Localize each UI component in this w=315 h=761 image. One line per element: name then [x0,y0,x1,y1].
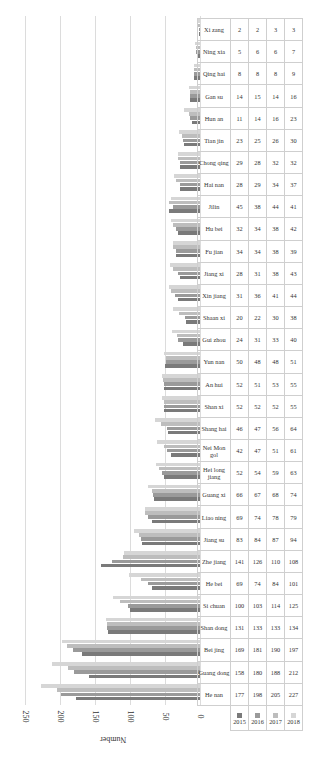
value-cell: 54 [249,462,267,484]
table-row: Fu jian34343839 [198,240,303,262]
category-label: Gan su [198,85,231,107]
bar-2015 [142,542,200,546]
value-cell: 87 [267,528,285,550]
bar-2017 [107,622,200,626]
value-cell: 34 [249,218,267,240]
legend-item-2016: 2016 [249,705,267,730]
bar-2016 [173,205,200,209]
category-label: Fu jian [198,240,231,262]
axis-tick-label: 250 [21,711,30,723]
value-cell: 190 [267,639,285,661]
value-cell: 126 [249,550,267,572]
category-label: Shan xi [198,395,231,417]
category-label: Hei long jiang [198,462,231,484]
value-cell: 25 [249,129,267,151]
value-cell: 67 [249,484,267,506]
value-cell: 8 [267,63,285,85]
table-row: Xin jiang31364144 [198,284,303,306]
value-cell: 6 [249,41,267,63]
value-cell: 61 [285,439,303,461]
bar-2017 [152,489,200,493]
table-row: He bei697484101 [198,572,303,594]
category-label: Shan dong [198,617,231,639]
value-cell: 23 [231,129,249,151]
value-cell: 47 [249,439,267,461]
category-label: Jiang su [198,528,231,550]
bar-2018 [155,418,200,422]
bar-2016 [148,515,200,519]
axis-tick-label: 0 [196,715,205,719]
bar-2015 [130,608,200,612]
table-row: Shaan xi20223038 [198,307,303,329]
table-row: Jiang xi28313843 [198,262,303,284]
value-cell: 34 [267,174,285,196]
value-cell: 79 [285,506,303,528]
value-cell: 2 [249,19,267,41]
value-cell: 38 [267,262,285,284]
bar-2015 [164,475,200,479]
category-label: Liao ning [198,506,231,528]
value-cell: 39 [285,240,303,262]
value-cell: 36 [249,284,267,306]
legend-item-2018: 2018 [285,705,303,730]
bar-2016 [107,626,200,630]
axis-tick-label: 50 [161,713,170,721]
category-label: Qing hai [198,63,231,85]
value-cell: 24 [231,329,249,351]
value-cell: 169 [231,639,249,661]
value-cell: 52 [249,395,267,417]
table-row: Shan dong131133133134 [198,617,303,639]
y-axis-label: Number [100,735,126,744]
bar-2017 [164,445,200,449]
bar-2016 [164,405,200,409]
value-cell: 38 [285,307,303,329]
value-cell: 46 [231,417,249,439]
value-cell: 8 [249,63,267,85]
value-cell: 52 [231,462,249,484]
value-cell: 34 [231,240,249,262]
bar-2017 [169,201,200,205]
value-cell: 84 [267,572,285,594]
table-row: Xi zang2233 [198,19,303,41]
table-row: Guang xi66676874 [198,484,303,506]
bar-2017 [141,578,200,582]
bar-2015 [171,453,200,457]
table-row: Guang dong158180188212 [198,661,303,683]
bar-2017 [123,555,200,559]
table-row: Zhe jiang141126110108 [198,550,303,572]
bar-2015 [152,520,200,524]
value-cell: 50 [231,351,249,373]
bar-2017 [164,400,200,404]
bar-2017 [57,688,201,692]
value-cell: 2 [231,19,249,41]
legend-label: 2018 [287,718,300,725]
value-cell: 33 [267,329,285,351]
bar-2017 [171,289,200,293]
legend-label: 2017 [269,718,282,725]
category-label: Zhe jiang [198,550,231,572]
value-cell: 198 [249,683,267,705]
category-label: Hu bei [198,218,231,240]
value-cell: 51 [267,439,285,461]
bar-2018 [170,263,200,267]
bar-2015 [108,630,200,634]
bar-2016 [112,560,200,564]
value-cell: 14 [249,107,267,129]
value-cell: 133 [249,617,267,639]
bar-2017 [173,245,200,249]
bar-2018 [171,197,200,201]
value-cell: 64 [285,417,303,439]
bar-2017 [159,467,200,471]
legend-item-2017: 2017 [267,705,285,730]
value-cell: 177 [231,683,249,705]
value-cell: 51 [249,373,267,395]
value-cell: 8 [231,63,249,85]
category-label: Xin jiang [198,284,231,306]
category-label: Shang hai [198,417,231,439]
table-row: Jiang su83848794 [198,528,303,550]
legend-label: 2015 [233,718,246,725]
value-cell: 78 [267,506,285,528]
value-cell: 55 [285,395,303,417]
chart-plot-area [0,0,200,705]
bar-2018 [164,352,200,356]
